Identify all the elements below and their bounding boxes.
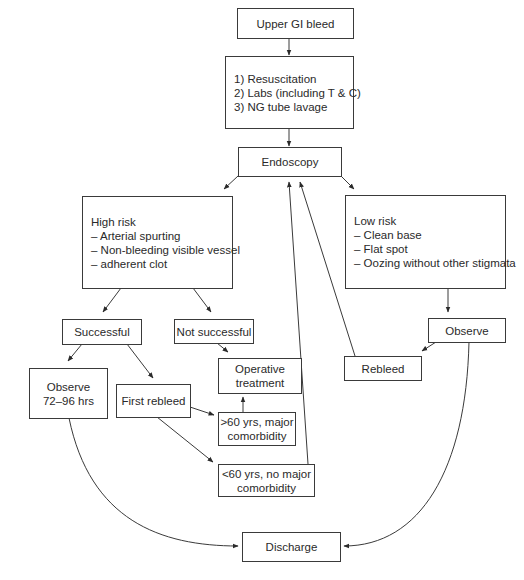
- node-first-rebleed: First rebleed: [116, 384, 191, 418]
- arrow-endoscopy-to-low-risk: [341, 176, 354, 189]
- node-text: <60 yrs, no major: [222, 467, 311, 481]
- node-text: – Oozing without other stigmata: [354, 256, 516, 270]
- node-observe-72-96: Observe 72–96 hrs: [29, 368, 108, 419]
- node-high-risk: High risk – Arterial spurting – Non-blee…: [82, 196, 233, 289]
- node-observe-low-risk: Observe: [428, 318, 506, 343]
- node-text: High risk: [91, 215, 240, 229]
- arrow-high-risk-to-not-successful: [193, 288, 211, 312]
- node-text: First rebleed: [122, 394, 186, 408]
- node-text: treatment: [235, 376, 285, 390]
- node-text: 72–96 hrs: [43, 394, 94, 408]
- node-text: Upper GI bleed: [257, 17, 335, 31]
- node-low-risk: Low risk – Clean base – Flat spot – Oozi…: [345, 195, 506, 289]
- arrow-endoscopy-to-high-risk: [224, 176, 238, 189]
- arrow-successful-to-first-rebleed: [127, 344, 153, 378]
- node-text: Not successful: [177, 325, 252, 339]
- arrow-not-successful-to-operative: [217, 343, 228, 352]
- node-text: – Clean base: [354, 228, 516, 242]
- node-under-60: <60 yrs, no major comorbidity: [218, 464, 315, 497]
- node-text: Discharge: [266, 540, 318, 554]
- node-text: – Arterial spurting: [91, 229, 240, 243]
- node-rebleed: Rebleed: [344, 356, 422, 381]
- node-operative-treatment: Operative treatment: [218, 358, 302, 394]
- node-not-successful: Not successful: [174, 319, 254, 344]
- node-text: – adherent clot: [91, 257, 240, 271]
- node-text: – Non-bleeding visible vessel: [91, 243, 240, 257]
- node-text: Endoscopy: [262, 155, 319, 169]
- node-text: Observe: [43, 380, 94, 394]
- node-initial-management: 1) Resuscitation 2) Labs (including T & …: [225, 56, 354, 129]
- node-text: – Flat spot: [354, 242, 516, 256]
- arrow-first-rebleed-to-under-60: [157, 417, 213, 462]
- node-text: Operative: [235, 362, 285, 376]
- arrow-observe-72-to-discharge: [69, 418, 238, 546]
- node-endoscopy: Endoscopy: [238, 147, 342, 177]
- node-text: Rebleed: [362, 362, 405, 376]
- node-text: comorbidity: [222, 481, 311, 495]
- arrow-first-rebleed-to-over-60: [190, 407, 214, 415]
- node-text: Successful: [74, 325, 130, 339]
- node-upper-gi-bleed: Upper GI bleed: [237, 8, 354, 39]
- node-text: 2) Labs (including T & C): [234, 86, 361, 100]
- node-text: Observe: [445, 324, 488, 338]
- node-text: 1) Resuscitation: [234, 72, 361, 86]
- node-successful: Successful: [62, 319, 142, 345]
- arrow-high-risk-to-successful: [103, 288, 121, 312]
- node-discharge: Discharge: [242, 532, 341, 562]
- arrow-successful-to-observe: [68, 344, 82, 361]
- node-over-60: >60 yrs, major comorbidity: [218, 412, 296, 446]
- node-text: >60 yrs, major: [220, 415, 293, 429]
- node-text: 3) NG tube lavage: [234, 100, 361, 114]
- node-text: Low risk: [354, 214, 516, 228]
- node-text: comorbidity: [220, 429, 293, 443]
- arrow-observe-to-rebleed: [422, 342, 436, 351]
